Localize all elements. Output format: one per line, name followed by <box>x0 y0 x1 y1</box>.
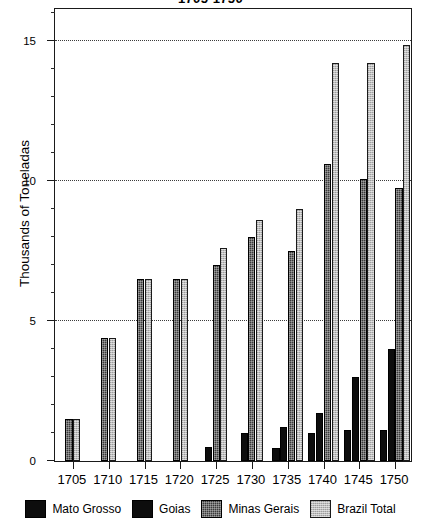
bar-minas-gerais-1725 <box>213 265 220 461</box>
y-tick-major-10: 10 <box>47 180 55 181</box>
y-tick-minor-3 <box>51 376 56 377</box>
legend-label-goias: Goias <box>159 502 190 516</box>
gridline-10 <box>55 180 411 181</box>
bar-mato-grosso-1735 <box>272 448 279 461</box>
y-tick-minor-13 <box>51 96 56 97</box>
x-tick-1740 <box>324 461 325 469</box>
x-axis-label-1750: 1750 <box>380 472 409 487</box>
y-tick-minor-11 <box>51 152 56 153</box>
x-tick-1735 <box>288 461 289 469</box>
bar-brazil-total-1720 <box>181 279 188 461</box>
y-tick-minor-2 <box>51 404 56 405</box>
x-axis-label-1725: 1725 <box>201 472 230 487</box>
gridline-5 <box>55 320 411 321</box>
x-axis-label-1740: 1740 <box>308 472 337 487</box>
bar-minas-gerais-1745 <box>360 179 367 461</box>
bar-brazil-total-1705 <box>73 419 80 461</box>
x-axis-label-1715: 1715 <box>129 472 158 487</box>
y-tick-minor-16 <box>51 12 56 13</box>
bar-minas-gerais-1715 <box>137 279 144 461</box>
x-tick-1730 <box>252 461 253 469</box>
bar-goias-1750 <box>388 349 395 461</box>
bar-minas-gerais-1705 <box>65 419 72 461</box>
bar-minas-gerais-1750 <box>395 188 402 461</box>
bar-chart: 1705-1750 Thousands of Toneladas 051015 … <box>0 0 421 532</box>
bar-goias-1740 <box>316 413 323 461</box>
y-tick-minor-14 <box>51 68 56 69</box>
x-tick-1725 <box>216 461 217 469</box>
bar-goias-1730 <box>241 433 248 461</box>
plot-area: 051015 <box>54 8 412 462</box>
gridline-15 <box>55 40 411 41</box>
bar-brazil-total-1715 <box>145 279 152 461</box>
bar-brazil-total-1750 <box>403 45 410 461</box>
bar-mato-grosso-1745 <box>344 430 351 461</box>
x-axis-label-1730: 1730 <box>236 472 265 487</box>
bar-brazil-total-1740 <box>332 63 339 461</box>
chart-legend: Mato GrossoGoiasMinas GeraisBrazil Total <box>0 500 421 518</box>
bar-brazil-total-1735 <box>296 209 303 461</box>
y-tick-major-15: 15 <box>47 40 55 41</box>
legend-item-minas-gerais[interactable]: Minas Gerais <box>201 500 299 518</box>
y-tick-label-15: 15 <box>23 35 36 47</box>
bar-minas-gerais-1740 <box>324 164 331 461</box>
x-axis-label-1710: 1710 <box>93 472 122 487</box>
bar-brazil-total-1725 <box>220 248 227 461</box>
bar-mato-grosso-1725 <box>205 447 212 461</box>
bar-brazil-total-1745 <box>367 63 374 461</box>
y-tick-minor-12 <box>51 124 56 125</box>
x-axis-label-1720: 1720 <box>165 472 194 487</box>
legend-swatch-mato-grosso <box>25 500 46 518</box>
x-tick-1705 <box>73 461 74 469</box>
legend-swatch-goias <box>132 500 153 518</box>
bar-minas-gerais-1710 <box>101 338 108 461</box>
chart-title: 1705-1750 <box>0 0 421 4</box>
y-tick-label-5: 5 <box>30 315 36 327</box>
bar-goias-1745 <box>352 377 359 461</box>
y-tick-minor-9 <box>51 208 56 209</box>
x-tick-1715 <box>145 461 146 469</box>
bar-minas-gerais-1730 <box>248 237 255 461</box>
legend-label-minas-gerais: Minas Gerais <box>228 502 299 516</box>
y-tick-minor-1 <box>51 432 56 433</box>
bar-minas-gerais-1720 <box>173 279 180 461</box>
bar-brazil-total-1710 <box>109 338 116 461</box>
x-tick-1745 <box>359 461 360 469</box>
legend-swatch-brazil-total <box>310 500 331 518</box>
y-axis-title: Thousands of Toneladas <box>17 104 32 324</box>
x-tick-1720 <box>180 461 181 469</box>
legend-item-goias[interactable]: Goias <box>132 500 190 518</box>
y-tick-major-0: 0 <box>47 460 55 461</box>
x-tick-1750 <box>395 461 396 469</box>
y-tick-minor-4 <box>51 348 56 349</box>
y-tick-label-10: 10 <box>23 175 36 187</box>
y-tick-minor-6 <box>51 292 56 293</box>
legend-label-mato-grosso: Mato Grosso <box>52 502 121 516</box>
x-axis-label-1745: 1745 <box>344 472 373 487</box>
bar-goias-1735 <box>280 427 287 461</box>
y-tick-major-5: 5 <box>47 320 55 321</box>
x-tick-1710 <box>109 461 110 469</box>
x-axis-label-1735: 1735 <box>272 472 301 487</box>
bar-mato-grosso-1750 <box>380 430 387 461</box>
x-axis-label-1705: 1705 <box>57 472 86 487</box>
y-tick-minor-7 <box>51 264 56 265</box>
bar-minas-gerais-1735 <box>288 251 295 461</box>
bar-brazil-total-1730 <box>256 220 263 461</box>
bar-mato-grosso-1740 <box>308 433 315 461</box>
y-tick-label-0: 0 <box>30 455 36 467</box>
legend-label-brazil-total: Brazil Total <box>337 502 395 516</box>
legend-swatch-minas-gerais <box>201 500 222 518</box>
y-tick-minor-8 <box>51 236 56 237</box>
legend-item-brazil-total[interactable]: Brazil Total <box>310 500 395 518</box>
legend-item-mato-grosso[interactable]: Mato Grosso <box>25 500 121 518</box>
